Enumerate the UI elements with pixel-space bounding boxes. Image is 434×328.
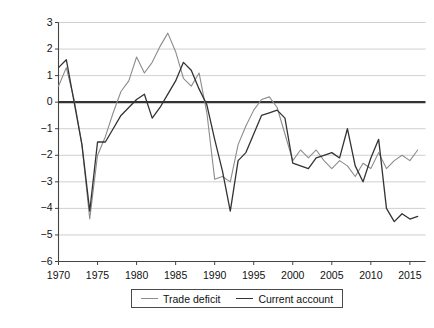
x-tick-label: 1995: [234, 269, 274, 281]
x-tick-label: 1970: [39, 269, 79, 281]
legend-item-trade-deficit: Trade deficit: [141, 293, 220, 305]
y-tick-label: 2: [23, 42, 53, 54]
x-tick-label: 2000: [273, 269, 313, 281]
x-tick-label: 1980: [117, 269, 157, 281]
y-tick-label: −5: [23, 228, 53, 240]
y-tick-label: −4: [23, 201, 53, 213]
x-tick-label: 1985: [156, 269, 196, 281]
series-line-current-account: [59, 60, 418, 222]
y-tick-label: 3: [23, 16, 53, 28]
legend-swatch-trade-deficit: [141, 298, 158, 299]
x-tick-label: 2010: [351, 269, 391, 281]
x-tick-label: 2005: [312, 269, 352, 281]
x-tick-label: 1975: [78, 269, 118, 281]
series-line-trade-deficit: [59, 33, 418, 219]
y-tick-label: −2: [23, 148, 53, 160]
data-series-group: [59, 33, 418, 222]
legend-swatch-current-account: [236, 298, 253, 299]
y-tick-label: −3: [23, 175, 53, 187]
y-tick-label: 1: [23, 69, 53, 81]
legend-label-trade-deficit: Trade deficit: [163, 293, 220, 305]
y-tick-label: −6: [23, 255, 53, 267]
x-tick-label: 2015: [390, 269, 430, 281]
legend-label-current-account: Current account: [258, 293, 333, 305]
chart-legend: Trade deficit Current account: [131, 289, 343, 308]
gridlines: [59, 23, 426, 262]
legend-item-current-account: Current account: [236, 293, 333, 305]
x-tick-label: 1990: [195, 269, 235, 281]
y-tick-label: 0: [23, 95, 53, 107]
chart-figure: Percentage share of GDP 3210−1−2−3−4−5−6…: [0, 0, 434, 328]
y-tick-label: −1: [23, 122, 53, 134]
